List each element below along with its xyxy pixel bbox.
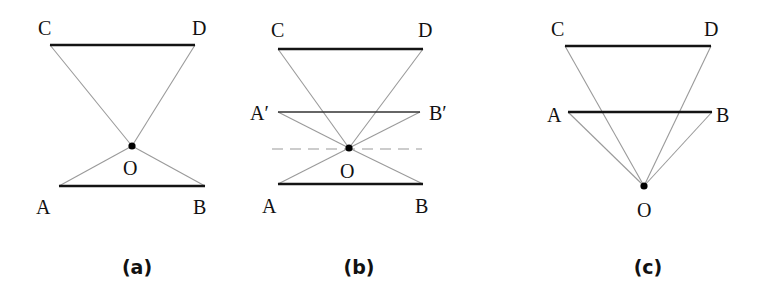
ray-aprime-o: [278, 112, 349, 148]
ray-d-o: [349, 49, 423, 148]
label-d: D: [192, 17, 206, 39]
ray-c-o: [565, 46, 644, 186]
label-b: B: [716, 104, 729, 126]
ray-b-o: [132, 146, 205, 186]
panel-b: C D A′ B′ O A B (b): [250, 19, 447, 278]
point-o-dot: [128, 142, 135, 149]
ray-b-o: [644, 112, 712, 186]
point-o-dot: [345, 144, 352, 151]
label-a: A: [36, 196, 51, 218]
caption-c: (c): [634, 256, 663, 278]
label-d: D: [418, 19, 432, 41]
label-c: C: [38, 17, 51, 39]
ray-c-o: [50, 45, 132, 146]
label-a-prime: A′: [250, 102, 269, 124]
ray-a-o: [278, 148, 349, 184]
point-o-dot: [640, 182, 647, 189]
label-b: B: [193, 196, 206, 218]
ray-a-o: [59, 146, 132, 186]
ray-d-o: [644, 46, 711, 186]
caption-b: (b): [344, 256, 375, 278]
label-b: B: [415, 195, 428, 217]
label-b-prime: B′: [429, 102, 447, 124]
label-o: O: [340, 160, 354, 182]
label-o: O: [637, 199, 651, 221]
ray-c-o: [278, 49, 349, 148]
ray-a-o: [568, 112, 644, 186]
label-a: A: [262, 195, 277, 217]
caption-a: (a): [122, 256, 152, 278]
label-c: C: [271, 19, 284, 41]
diagram-canvas: C D O A B (a) C D A′ B′ O A B (b): [0, 0, 767, 293]
ray-b-o: [349, 148, 423, 184]
ray-bprime-o: [349, 112, 420, 148]
panel-a: C D O A B (a): [36, 17, 206, 278]
label-a: A: [547, 104, 562, 126]
label-d: D: [704, 18, 718, 40]
label-c: C: [551, 18, 564, 40]
panel-c: C D A B O (c): [547, 18, 729, 278]
ray-d-o: [132, 45, 195, 146]
label-o: O: [123, 157, 137, 179]
